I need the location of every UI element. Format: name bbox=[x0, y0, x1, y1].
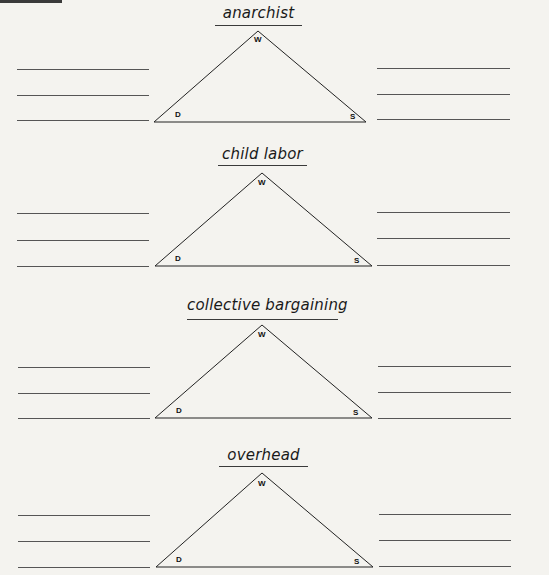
answer-line-right-3[interactable] bbox=[379, 566, 511, 567]
answer-line-right-2[interactable] bbox=[379, 540, 511, 541]
answer-line-left-2[interactable] bbox=[18, 541, 150, 542]
word-triangle-overhead: overhead W D S bbox=[0, 0, 549, 575]
vertex-label-d: D bbox=[176, 555, 182, 564]
vertex-label-w: W bbox=[258, 479, 266, 488]
answer-line-left-1[interactable] bbox=[18, 515, 150, 516]
triangle-diagram bbox=[0, 0, 549, 575]
vertex-label-s: S bbox=[354, 557, 359, 566]
answer-line-right-1[interactable] bbox=[379, 514, 511, 515]
answer-line-left-3[interactable] bbox=[18, 567, 150, 568]
